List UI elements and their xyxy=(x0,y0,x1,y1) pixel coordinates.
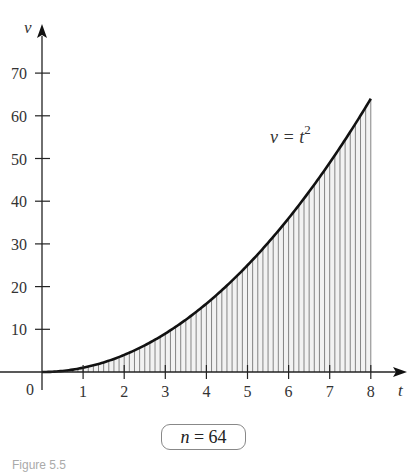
y-tick-label: 30 xyxy=(11,236,27,253)
y-axis-arrow-icon xyxy=(37,24,47,38)
x-tick-label: 6 xyxy=(285,383,293,400)
x-tick-label: 4 xyxy=(202,383,210,400)
y-tick-label: 70 xyxy=(11,65,27,82)
y-tick-label: 60 xyxy=(11,108,27,125)
x-tick-label: 2 xyxy=(120,383,128,400)
y-tick-label: 20 xyxy=(11,279,27,296)
x-tick-label: 8 xyxy=(367,383,375,400)
badge-variable: n xyxy=(180,427,189,448)
figure-caption: Figure 5.5 xyxy=(12,458,66,472)
y-tick-label: 40 xyxy=(11,193,27,210)
y-axis-label: v xyxy=(24,18,32,37)
x-tick-label: 7 xyxy=(326,383,334,400)
x-tick-label: 5 xyxy=(244,383,252,400)
x-tick-label: 3 xyxy=(161,383,169,400)
badge-value: = 64 xyxy=(189,427,226,448)
y-tick-label: 50 xyxy=(11,151,27,168)
x-tick-label: 1 xyxy=(79,383,87,400)
riemann-rectangles xyxy=(42,99,371,372)
origin-label: 0 xyxy=(26,381,34,398)
n-rectangles-badge: n = 64 xyxy=(161,424,246,450)
y-tick-label: 10 xyxy=(11,321,27,338)
curve-label: v = t2 xyxy=(270,122,311,147)
x-axis-label: t xyxy=(398,381,404,400)
